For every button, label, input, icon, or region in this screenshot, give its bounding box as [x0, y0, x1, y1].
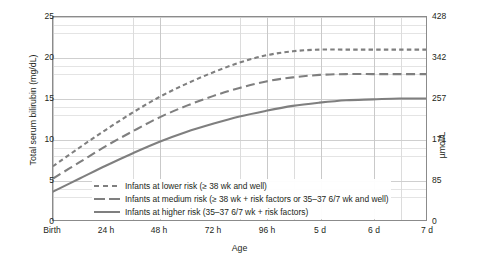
y-axis-title-left: Total serum bilirubin (mg/dL) — [28, 35, 38, 185]
legend-label: Infants at medium risk (≥ 38 wk + risk f… — [125, 194, 389, 204]
x-tick-label-7d: 7 d — [397, 226, 457, 235]
legend-item-lower-risk: Infants at lower risk (≥ 38 wk and well) — [94, 180, 389, 192]
y-tick-label-right: 257 — [432, 94, 462, 103]
y-tick-label-right: 0 — [432, 217, 462, 226]
legend-label: Infants at lower risk (≥ 38 wk and well) — [125, 181, 267, 191]
y-tick-label-right: 342 — [432, 53, 462, 62]
x-tick-label-24h: 24 h — [76, 226, 136, 235]
y-tick-label-right: 85 — [432, 176, 462, 185]
x-axis-title: Age — [52, 243, 427, 253]
legend-item-higher-risk: Infants at higher risk (35–37 6/7 wk + r… — [94, 206, 389, 218]
legend-item-medium-risk: Infants at medium risk (≥ 38 wk + risk f… — [94, 193, 389, 205]
series-line-lower-risk — [53, 50, 426, 167]
solid-line-icon — [94, 211, 120, 213]
y-axis-title-right: µmol/L — [437, 115, 447, 175]
x-tick-label-5d: 5 d — [290, 226, 350, 235]
dotted-dash-line-icon — [94, 185, 120, 187]
x-tick-label-6d: 6 d — [344, 226, 404, 235]
series-line-medium-risk — [53, 74, 426, 178]
legend: Infants at lower risk (≥ 38 wk and well)… — [92, 179, 391, 219]
x-tick-label-birth: Birth — [22, 226, 82, 235]
series-line-higher-risk — [53, 99, 426, 192]
legend-label: Infants at higher risk (35–37 6/7 wk + r… — [125, 207, 308, 217]
y-tick-label-left: 25 — [30, 12, 54, 21]
dashed-line-icon — [94, 198, 120, 200]
x-tick-label-72h: 72 h — [183, 226, 243, 235]
x-tick-label-96h: 96 h — [237, 226, 297, 235]
x-tick-label-48h: 48 h — [129, 226, 189, 235]
phototherapy-nomogram-chart: 25 20 15 10 5 0 428 342 257 171 85 0 Bir… — [0, 0, 485, 269]
y-tick-label-right: 428 — [432, 12, 462, 21]
